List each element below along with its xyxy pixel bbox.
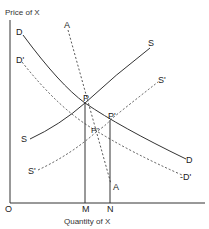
supply-curve-s — [30, 48, 150, 139]
point-p-prime-label: P' — [108, 111, 116, 121]
origin-label: O — [5, 204, 12, 214]
label-s-start: S — [21, 134, 27, 144]
point-p-label: P — [83, 93, 89, 103]
supply-demand-diagram: Price of X Quantity of X O D D D' -D' S … — [0, 0, 209, 229]
tick-m-label: M — [82, 204, 90, 214]
point-p-double-prime-label: P'' — [91, 126, 100, 135]
label-d-end: D — [186, 155, 193, 165]
label-s-end: S — [148, 38, 154, 48]
label-d-prime-end: -D' — [180, 172, 191, 182]
demand-curve-d — [23, 35, 186, 159]
label-s-prime-end: S' — [158, 75, 166, 85]
label-d-start: D — [16, 27, 23, 37]
tick-n-label: N — [107, 204, 114, 214]
label-d-prime-start: D' — [16, 55, 24, 65]
label-a-top: A — [64, 20, 70, 30]
label-a-bottom: A — [113, 182, 119, 192]
a-line — [68, 30, 111, 184]
y-axis-label: Price of X — [5, 8, 40, 17]
label-s-prime-start: S' — [28, 166, 36, 176]
x-axis-label: Quantity of X — [64, 217, 111, 226]
